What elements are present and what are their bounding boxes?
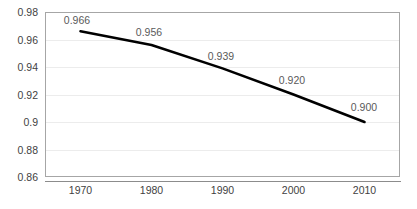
y-axis-tick-label: 0.96 (18, 34, 38, 45)
data-label: 0.956 (136, 27, 162, 38)
y-axis-tick-label: 0.92 (18, 89, 38, 100)
gridline (46, 122, 399, 123)
x-axis-tick-labels: 1970 1980 1990 2000 2010 (45, 185, 400, 203)
x-axis-tick-label: 1990 (211, 185, 234, 196)
gridline (46, 67, 399, 68)
x-axis-line (45, 181, 401, 182)
data-label: 0.920 (279, 75, 305, 86)
y-axis-tick-label: 0.94 (18, 62, 38, 73)
y-axis-tick-label: 0.88 (18, 144, 38, 155)
gridline (46, 150, 399, 151)
plot-area (45, 12, 400, 177)
data-label: 0.939 (208, 51, 234, 62)
y-axis-tick-label: 0.86 (18, 172, 38, 183)
line-chart: 0.98 0.96 0.94 0.92 0.9 0.88 0.86 0.966 … (0, 0, 417, 209)
y-axis-tick-label: 0.9 (23, 117, 38, 128)
x-axis-tick-label: 2000 (282, 185, 305, 196)
data-label: 0.900 (351, 102, 377, 113)
x-axis-tick-label: 1980 (140, 185, 163, 196)
x-axis-tick-label: 2010 (353, 185, 376, 196)
gridline (46, 95, 399, 96)
x-axis-tick-label: 1970 (69, 185, 92, 196)
data-label: 0.966 (64, 15, 90, 26)
gridline (46, 40, 399, 41)
y-axis-tick-label: 0.98 (18, 7, 38, 18)
y-axis-tick-labels: 0.98 0.96 0.94 0.92 0.9 0.88 0.86 (0, 12, 40, 177)
